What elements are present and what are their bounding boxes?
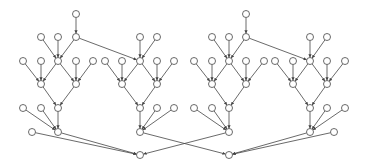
node-R2b: [209, 58, 216, 65]
node-R5a: [226, 129, 233, 136]
edge-R2a-R3a: [196, 64, 210, 81]
node-L0: [73, 11, 80, 18]
edge-R2h-R3c: [295, 64, 308, 81]
node-R2h: [307, 58, 314, 65]
node-R4e: [324, 105, 331, 112]
dag-diagram: [0, 0, 369, 168]
node-SL: [137, 152, 144, 159]
edge-L2c-L3b: [60, 64, 74, 81]
node-R4a: [191, 105, 198, 112]
node-L1a: [38, 34, 45, 41]
node-L3b: [73, 81, 80, 88]
node-L2e: [90, 58, 97, 65]
edge-L1e-L2h: [142, 40, 155, 58]
edge-L1c-L2c: [60, 40, 74, 58]
node-R3d: [324, 81, 331, 88]
edge-L2h-L3c: [124, 64, 138, 81]
edge-R5b-SR: [232, 133, 306, 154]
node-R4d: [307, 105, 314, 112]
node-L1b: [55, 34, 62, 41]
node-R1b: [226, 34, 233, 41]
node-L2c: [55, 58, 62, 65]
node-SR: [226, 152, 233, 159]
node-R1e: [324, 34, 331, 41]
edge-R4f-R5b: [313, 110, 342, 130]
edge-L1c-L2h: [79, 38, 136, 60]
node-L1d: [137, 34, 144, 41]
node-L5c: [137, 129, 144, 136]
edge-R3b-R4c: [231, 87, 244, 105]
node-L4d: [137, 105, 144, 112]
node-R3c: [290, 81, 297, 88]
edge-R2j-R3d: [329, 64, 343, 81]
node-L2f: [102, 58, 109, 65]
edge-L3a-L4c: [43, 87, 56, 105]
node-L2a: [20, 58, 27, 65]
node-L1c: [73, 34, 80, 41]
edge-L4f-L5c: [143, 110, 171, 130]
edge-L5b-SL: [61, 133, 136, 154]
edge-R1c-R2h: [249, 38, 306, 60]
node-R5c: [331, 129, 338, 136]
node-R2c: [226, 58, 233, 65]
node-L4c: [55, 105, 62, 112]
node-R3b: [243, 81, 250, 88]
edge-R2f-R3c: [277, 64, 291, 81]
edge-R5c-SR: [232, 133, 330, 155]
node-R2j: [342, 58, 349, 65]
node-L4b: [38, 105, 45, 112]
edge-R1a-R2c: [214, 40, 227, 58]
node-L3a: [38, 81, 45, 88]
node-L2d: [73, 58, 80, 65]
node-R0: [243, 11, 250, 18]
edge-R1c-R2c: [231, 40, 244, 58]
edge-L5a-SL: [35, 133, 136, 155]
edge-L3d-L4d: [142, 87, 155, 105]
node-L5a: [29, 129, 36, 136]
edge-L2f-L3c: [107, 64, 120, 81]
node-L3c: [119, 81, 126, 88]
node-layer: [20, 11, 349, 159]
node-R1c: [243, 34, 250, 41]
edge-R2h-R3d: [312, 64, 325, 81]
edge-R2c-R3b: [231, 64, 244, 81]
edge-R3d-R4d: [312, 87, 325, 105]
node-L4e: [154, 105, 161, 112]
node-L2b: [38, 58, 45, 65]
edge-L2j-L3d: [159, 64, 172, 81]
edge-R3a-R4c: [214, 87, 227, 105]
node-L4f: [171, 105, 178, 112]
node-L4a: [20, 105, 27, 112]
edge-L4a-L5b: [26, 110, 55, 130]
node-R2g: [290, 58, 297, 65]
edge-L2e-L3b: [78, 64, 91, 81]
edge-R2e-R3b: [248, 64, 262, 81]
edge-L3c-L4d: [124, 87, 138, 105]
node-L2j: [171, 58, 178, 65]
node-R5b: [307, 129, 314, 136]
edge-R1e-R2h: [312, 40, 325, 58]
node-R2a: [191, 58, 198, 65]
node-R1d: [307, 34, 314, 41]
node-R3a: [209, 81, 216, 88]
edge-R4a-R5a: [197, 110, 226, 130]
node-R4b: [209, 105, 216, 112]
edge-L3b-L4c: [60, 87, 74, 105]
edge-R3c-R4d: [295, 87, 308, 105]
node-R4f: [342, 105, 349, 112]
node-R1a: [209, 34, 216, 41]
edge-R2c-R3a: [214, 64, 227, 81]
node-R2f: [272, 58, 279, 65]
node-L2g: [119, 58, 126, 65]
node-R2e: [261, 58, 268, 65]
node-L1e: [154, 34, 161, 41]
edge-L2h-L3d: [142, 64, 155, 81]
node-L3d: [154, 81, 161, 88]
node-R2d: [243, 58, 250, 65]
edge-L2c-L3a: [43, 64, 56, 81]
edge-L1a-L2c: [43, 40, 56, 58]
node-R2i: [324, 58, 331, 65]
node-R4c: [226, 105, 233, 112]
node-L5b: [55, 129, 62, 136]
node-L2h: [137, 58, 144, 65]
